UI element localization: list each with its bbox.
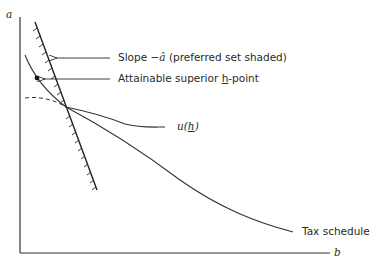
attainable-prefix: Attainable superior [118, 72, 222, 84]
u-suffix: ) [195, 120, 199, 132]
u-symbol: h [188, 120, 195, 132]
slope-annotation: Slope −â (preferred set shaded) [118, 51, 287, 63]
u-h-curve [66, 107, 165, 127]
u-h-label: u(h) [177, 120, 199, 132]
u-prefix: u( [177, 120, 188, 132]
attainable-suffix: -point [228, 72, 259, 84]
slope-suffix: (preferred set shaded) [166, 51, 287, 63]
x-axis-label: b [334, 246, 341, 258]
attainable-superior-point [35, 76, 40, 81]
attainable-annotation: Attainable superior h-point [118, 72, 259, 84]
slope-prefix: Slope − [118, 51, 159, 63]
y-axis-label: a [6, 8, 12, 20]
tax-schedule-label: Tax schedule [302, 225, 370, 237]
